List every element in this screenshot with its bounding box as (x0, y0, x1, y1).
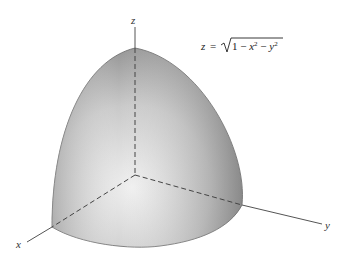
surface-rim-shading (52, 48, 243, 247)
x-axis-line (27, 227, 52, 242)
y-axis-line (242, 205, 322, 224)
equation-equals: = (210, 40, 216, 52)
z-axis-label: z (130, 14, 136, 26)
x-axis-label: x (15, 238, 21, 250)
equation-lhs: z (200, 40, 206, 52)
equation-label: z = 1 − x2 − y2 (200, 38, 283, 52)
equation-radicand: 1 − x2 − y2 (232, 40, 278, 52)
y-axis-label: y (324, 219, 330, 231)
hemisphere-octant-diagram: z x y z = 1 − x2 − y2 (0, 0, 344, 260)
